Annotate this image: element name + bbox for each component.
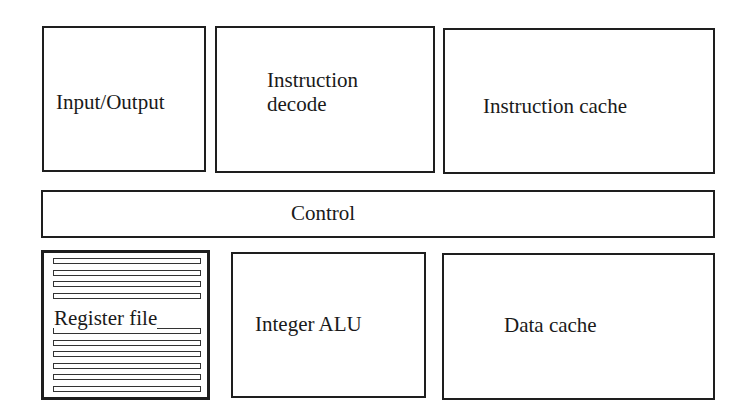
data-cache-label: Data cache: [504, 313, 597, 337]
integer-alu-label: Integer ALU: [255, 312, 362, 336]
register-row: [53, 281, 201, 287]
register-row: [53, 270, 201, 276]
register-row: [53, 258, 201, 264]
register-row: [53, 340, 201, 346]
data-cache-block: Data cache: [442, 253, 715, 400]
control-block: Control: [41, 190, 715, 238]
register-row: [53, 386, 201, 392]
instruction-cache-block: Instruction cache: [443, 28, 715, 174]
register-file-block: Register file: [41, 250, 210, 400]
control-label: Control: [291, 201, 355, 225]
instruction-decode-block: Instruction decode: [215, 26, 435, 173]
input-output-block: Input/Output: [42, 26, 206, 172]
register-row: [53, 293, 201, 299]
register-row: [53, 351, 201, 357]
input-output-label: Input/Output: [56, 90, 165, 114]
register-row: [53, 363, 201, 369]
integer-alu-block: Integer ALU: [231, 252, 426, 398]
register-file-label: Register file: [54, 306, 157, 330]
instruction-cache-label: Instruction cache: [483, 94, 627, 118]
register-row: [53, 374, 201, 380]
instruction-decode-label: Instruction decode: [267, 68, 358, 116]
